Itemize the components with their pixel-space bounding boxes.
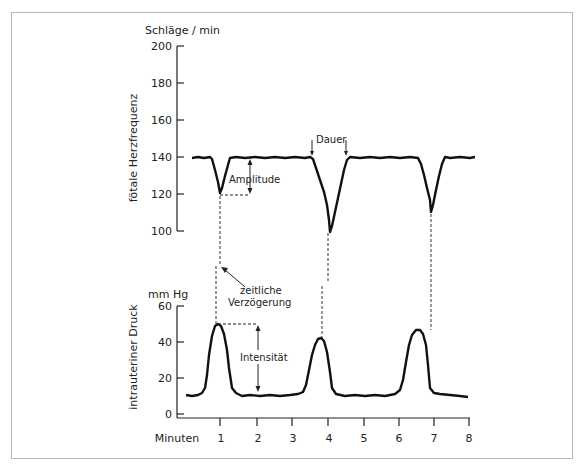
xtick-8: 8 xyxy=(466,432,473,445)
bottom-y-label: intrauteriner Druck xyxy=(127,304,140,410)
top-ytick-200: 200 xyxy=(151,40,172,53)
top-ytick-100: 100 xyxy=(151,225,172,238)
pressure-trace xyxy=(186,324,468,397)
xtick-3: 3 xyxy=(290,432,297,445)
x-axis-label: Minuten xyxy=(155,432,200,445)
xtick-2: 2 xyxy=(255,432,262,445)
xtick-7: 7 xyxy=(431,432,438,445)
amplitude-arrow-down-icon xyxy=(248,188,253,194)
alignment-dashed-lines xyxy=(216,196,431,338)
xtick-6: 6 xyxy=(396,432,403,445)
bottom-ytick-0: 0 xyxy=(165,408,172,421)
bottom-ytick-40: 40 xyxy=(158,336,172,349)
bottom-ytick-60: 60 xyxy=(158,300,172,313)
top-panel: Schläge / min 200 180 160 140 120 100 fö… xyxy=(127,24,475,238)
amplitude-label: Amplitude xyxy=(229,174,280,185)
intensity-arrow-down-icon xyxy=(256,386,261,392)
bottom-panel: mm Hg 60 40 20 0 intrauteriner Druck xyxy=(127,288,473,445)
intensity-arrow-up-icon xyxy=(256,325,261,331)
delay-label-line2: Verzögerung xyxy=(228,297,291,308)
bottom-ytick-20: 20 xyxy=(158,372,172,385)
top-unit-label: Schläge / min xyxy=(145,24,220,37)
duration-label: Dauer xyxy=(316,134,347,145)
top-y-label: fötale Herzfrequenz xyxy=(127,93,140,202)
xtick-4: 4 xyxy=(326,432,333,445)
top-ytick-120: 120 xyxy=(151,188,172,201)
intensity-label: Intensität xyxy=(240,352,288,363)
bottom-y-ticks xyxy=(177,306,184,414)
top-ytick-160: 160 xyxy=(151,114,172,127)
xtick-5: 5 xyxy=(361,432,368,445)
top-ytick-140: 140 xyxy=(151,151,172,164)
fhr-ctg-chart: Schläge / min 200 180 160 140 120 100 fö… xyxy=(0,0,585,470)
top-y-ticks xyxy=(177,46,184,231)
duration-end-arrow-icon xyxy=(344,151,348,156)
fhr-trace xyxy=(192,157,475,232)
delay-label-line1: zeitliche xyxy=(240,285,282,296)
duration-start-arrow-icon xyxy=(310,151,314,156)
x-ticks xyxy=(220,418,469,426)
top-ytick-180: 180 xyxy=(151,77,172,90)
xtick-1: 1 xyxy=(218,432,225,445)
amplitude-arrow-up-icon xyxy=(248,159,253,165)
